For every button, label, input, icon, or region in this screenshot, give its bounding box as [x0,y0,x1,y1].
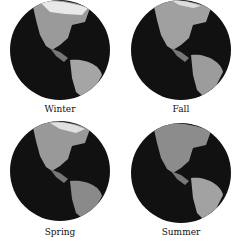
globe-image-summer [131,123,231,223]
globe-image-spring [10,121,110,221]
globe-image-fall [131,0,231,100]
panel-label: Spring [0,227,120,237]
panel-winter: Winter [0,0,120,120]
globe-image-winter [10,0,110,100]
panel-label: Summer [121,227,241,237]
panel-spring: Spring [0,121,120,241]
panel-summer: Summer [121,121,241,241]
panel-fall: Fall [121,0,241,120]
panel-label: Fall [121,104,241,114]
panel-label: Winter [0,104,120,114]
